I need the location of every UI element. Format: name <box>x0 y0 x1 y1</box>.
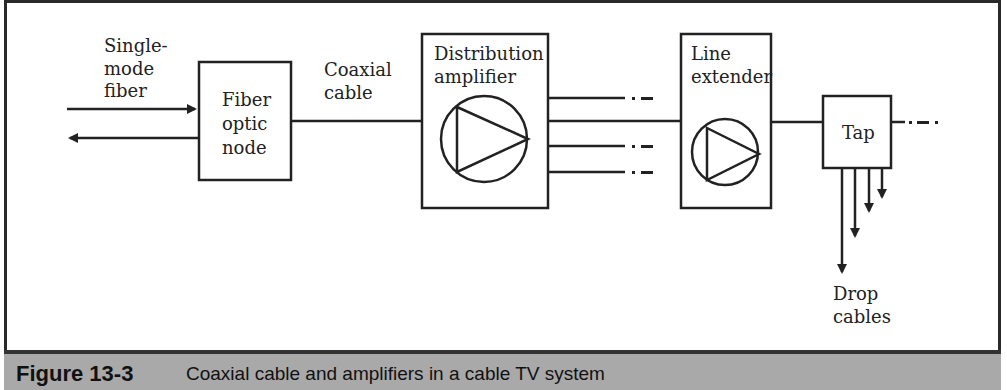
drop-cables-label: Drop cables <box>833 283 891 327</box>
amplifier-circle-icon <box>441 96 527 182</box>
figure-caption: Coaxial cable and amplifiers in a cable … <box>186 363 605 385</box>
tap-label: Tap <box>842 122 875 143</box>
input-fiber-label: Single- mode fiber <box>104 35 173 101</box>
line-extender-label: Line extender <box>691 43 772 87</box>
fiber-node-label: Fiber optic node <box>222 89 277 158</box>
extender-circle-icon <box>692 119 758 185</box>
figure-number: Figure 13-3 <box>16 361 133 387</box>
coaxial-cable-label: Coaxial cable <box>324 59 397 103</box>
figure-caption-bar: Figure 13-3 Coaxial cable and amplifiers… <box>4 350 1001 390</box>
distribution-amplifier-label: Distribution amplifier <box>434 43 549 87</box>
amplifier-triangle-icon <box>457 107 528 172</box>
